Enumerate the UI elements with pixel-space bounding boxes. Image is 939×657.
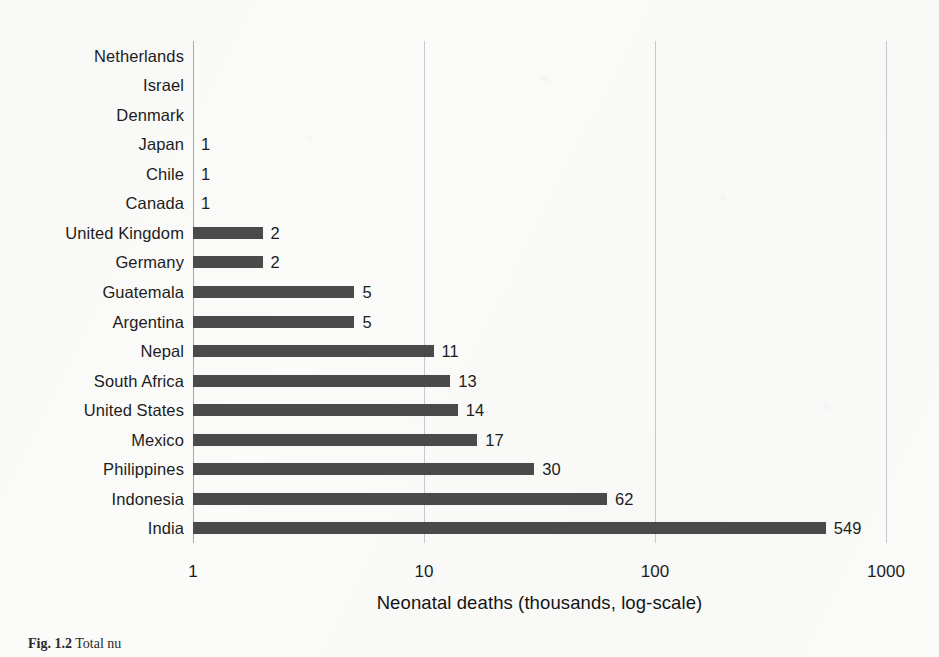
chart-plot-area: NetherlandsIsraelDenmarkJapan1Chile1Cana…: [193, 41, 886, 543]
bar-row: India549: [193, 513, 886, 543]
bar: [193, 316, 354, 328]
bar-row: Chile1: [193, 159, 886, 189]
bar-value-label: 1: [201, 135, 210, 154]
category-label: Denmark: [116, 105, 184, 124]
category-label: Canada: [126, 194, 184, 213]
x-tick-label: 1000: [867, 562, 905, 582]
bar: [193, 493, 607, 505]
bar-value-label: 5: [362, 312, 371, 331]
bar-row: Nepal11: [193, 336, 886, 366]
figure-caption: Fig. 1.2 Total nu: [28, 636, 121, 652]
bar-row: Philippines30: [193, 454, 886, 484]
bar-value-label: 62: [615, 489, 633, 508]
category-label: India: [148, 519, 184, 538]
bar-value-label: 14: [466, 401, 484, 420]
category-label: Guatemala: [102, 282, 184, 301]
bar: [193, 522, 826, 534]
category-label: South Africa: [94, 371, 184, 390]
bar: [193, 375, 450, 387]
bar-value-label: 13: [458, 371, 476, 390]
bar: [193, 227, 263, 239]
category-label: Israel: [143, 76, 184, 95]
bar: [193, 404, 458, 416]
x-tick-label: 100: [641, 562, 669, 582]
bar-value-label: 1: [201, 194, 210, 213]
bar-value-label: 2: [271, 253, 280, 272]
category-label: United States: [84, 401, 184, 420]
bar-value-label: 11: [442, 342, 459, 361]
bar-value-label: 549: [834, 519, 862, 538]
figure-caption-label: Fig. 1.2: [28, 636, 72, 651]
category-label: United Kingdom: [65, 223, 184, 242]
bar-value-label: 1: [201, 164, 210, 183]
category-label: Germany: [115, 253, 184, 272]
bar-row: Guatemala5: [193, 277, 886, 307]
bar-row: Japan1: [193, 130, 886, 160]
bar-row: Argentina5: [193, 307, 886, 337]
category-label: Philippines: [103, 460, 184, 479]
bar-value-label: 17: [485, 430, 503, 449]
bar-row: Canada1: [193, 189, 886, 219]
bar-row: Israel: [193, 71, 886, 101]
bar-value-label: 5: [362, 282, 371, 301]
bar-row: Mexico17: [193, 425, 886, 455]
category-label: Argentina: [112, 312, 184, 331]
x-axis-title: Neonatal deaths (thousands, log-scale): [193, 592, 886, 614]
category-label: Nepal: [140, 342, 184, 361]
category-label: Netherlands: [94, 46, 184, 65]
bar-value-label: 30: [542, 460, 560, 479]
gridline-1000: [886, 41, 887, 543]
x-tick-label: 10: [415, 562, 434, 582]
bar-row: Indonesia62: [193, 484, 886, 514]
bar: [193, 256, 263, 268]
bar-row: United States14: [193, 395, 886, 425]
bar-row: Netherlands: [193, 41, 886, 71]
bar-row: United Kingdom2: [193, 218, 886, 248]
category-label: Japan: [139, 135, 184, 154]
bar-row: South Africa13: [193, 366, 886, 396]
bar: [193, 345, 434, 357]
bar: [193, 286, 354, 298]
category-label: Chile: [146, 164, 184, 183]
bar: [193, 434, 477, 446]
bar-row: Denmark: [193, 100, 886, 130]
x-tick-label: 1: [188, 562, 197, 582]
bar: [193, 463, 534, 475]
bar-value-label: 2: [271, 223, 280, 242]
x-axis-tick-labels: 1101001000: [0, 562, 939, 586]
category-label: Mexico: [131, 430, 184, 449]
figure-page: NetherlandsIsraelDenmarkJapan1Chile1Cana…: [0, 0, 939, 657]
bar-row: Germany2: [193, 248, 886, 278]
figure-caption-text: Total nu: [75, 636, 121, 651]
category-label: Indonesia: [112, 489, 184, 508]
